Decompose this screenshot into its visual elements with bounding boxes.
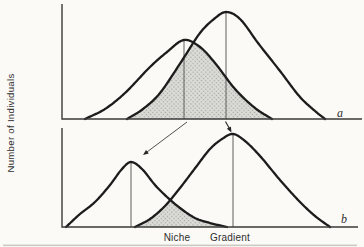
x-axis-label-gradient: Gradient [210,232,250,243]
figure-svg: Number of Individuals Niche Gradient a b [0,0,364,247]
shift-arrow-left-species-head [143,150,149,155]
panel-b-axes [62,128,358,227]
panel-b-species-1-curve [66,162,227,227]
shift-arrow-left-species [146,122,187,153]
shift-arrows [143,122,232,156]
panel-b [62,128,358,227]
x-axis-label-niche: Niche [164,232,191,243]
panel-a [62,4,362,119]
panel-b-label: b [341,212,347,226]
scan-edge-artifact [3,245,357,247]
y-axis-label: Number of Individuals [5,73,16,172]
figure: Number of Individuals Niche Gradient a b [0,0,364,247]
panel-a-overlap-shading [127,43,272,119]
panel-a-label: a [337,106,343,120]
